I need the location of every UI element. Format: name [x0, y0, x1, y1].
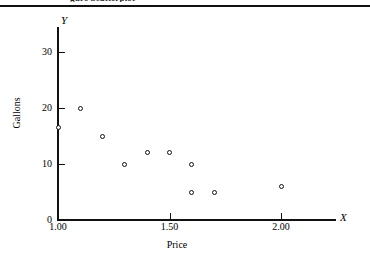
- y-tick-label: 20: [30, 103, 52, 113]
- y-tick-label-text: 30: [32, 47, 52, 57]
- x-tick-mark: [281, 213, 282, 219]
- x-tick-mark: [58, 213, 59, 219]
- y-axis-symbol: Y: [61, 14, 67, 26]
- data-point: [212, 190, 217, 195]
- y-tick-label-text: 20: [32, 103, 52, 113]
- data-point: [145, 150, 150, 155]
- data-point: [189, 162, 194, 167]
- x-tick-label: 2.00: [261, 222, 301, 232]
- y-tick-mark: [59, 52, 65, 53]
- y-tick-label: 30: [30, 47, 52, 57]
- y-tick-label: 10: [30, 159, 52, 169]
- x-axis-line: [57, 219, 336, 221]
- y-axis-title: Gallons: [12, 83, 22, 143]
- y-axis-line: [57, 27, 59, 221]
- x-tick-label: 1.50: [150, 222, 190, 232]
- y-tick-mark: [59, 164, 65, 165]
- data-point: [122, 162, 127, 167]
- data-point: [189, 190, 194, 195]
- y-tick-label-text: 10: [32, 159, 52, 169]
- data-point: [56, 125, 61, 130]
- data-point: [279, 184, 284, 189]
- x-axis-title: Price: [147, 240, 207, 250]
- scatter-plot: Y X Gallons Price 0102030 1.001.502.00: [0, 0, 370, 261]
- data-point: [78, 106, 83, 111]
- data-point: [100, 134, 105, 139]
- data-point: [167, 150, 172, 155]
- x-tick-mark: [170, 213, 171, 219]
- x-tick-label: 1.00: [38, 222, 78, 232]
- x-axis-symbol: X: [340, 211, 347, 223]
- y-tick-mark: [59, 108, 65, 109]
